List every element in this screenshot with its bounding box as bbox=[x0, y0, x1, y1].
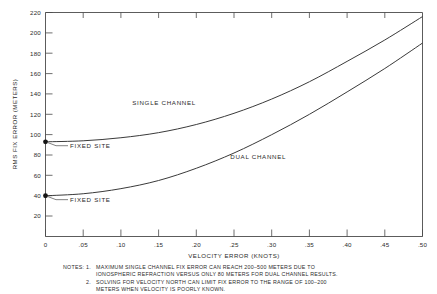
fixed-site-label-single: FIXED SITE bbox=[70, 142, 111, 149]
fixed-site-annotation-dual: FIXED SITE bbox=[43, 193, 111, 202]
x-tick-label: .05 bbox=[79, 241, 89, 248]
note-1-line-1: MAXIMUM SINGLE CHANNEL FIX ERROR CAN REA… bbox=[96, 264, 315, 270]
x-tick-label: .45 bbox=[380, 241, 390, 248]
y-tick-label: 200 bbox=[30, 29, 41, 36]
note-number-1: 1. bbox=[86, 264, 91, 270]
y-tick-label: 220 bbox=[30, 9, 41, 16]
fixed-site-leader-single bbox=[48, 143, 68, 146]
y-tick-label: 180 bbox=[30, 50, 41, 57]
notes-heading: NOTES: bbox=[63, 264, 84, 270]
x-tick-label: .25 bbox=[229, 241, 239, 248]
fixed-site-marker-single bbox=[43, 139, 48, 144]
single-channel-label: SINGLE CHANNEL bbox=[132, 99, 196, 106]
x-tick-label: .50 bbox=[418, 241, 428, 248]
x-tick-label: .15 bbox=[154, 241, 164, 248]
notes-block: NOTES: 1. MAXIMUM SINGLE CHANNEL FIX ERR… bbox=[63, 264, 338, 292]
y-tick-labels: 220 200 180 160 140 120 100 80 60 40 20 bbox=[30, 9, 41, 220]
y-tick-label: 140 bbox=[30, 90, 41, 97]
x-tick-label: .10 bbox=[116, 241, 126, 248]
x-tick-label: .30 bbox=[267, 241, 277, 248]
fixed-site-label-dual: FIXED SITE bbox=[70, 196, 111, 203]
top-border-ticks bbox=[83, 13, 385, 19]
note-2-line-2: METERS WHEN VELOCITY IS POORLY KNOWN. bbox=[96, 286, 225, 292]
fixed-site-marker-dual bbox=[43, 193, 48, 198]
y-tick-label: 20 bbox=[34, 212, 42, 219]
y-tick-label: 80 bbox=[34, 151, 42, 158]
x-tick-label: 0 bbox=[44, 241, 48, 248]
dual-channel-label: DUAL CHANNEL bbox=[230, 153, 286, 160]
y-tick-label: 120 bbox=[30, 111, 41, 118]
note-1-line-2: IONOSPHERIC REFRACTION VERSUS ONLY 80 ME… bbox=[96, 271, 338, 277]
y-tick-label: 40 bbox=[34, 192, 42, 199]
y-tick-label: 100 bbox=[30, 131, 41, 138]
x-tick-label: .35 bbox=[305, 241, 315, 248]
dual-channel-curve bbox=[46, 43, 423, 196]
y-tick-label: 160 bbox=[30, 70, 41, 77]
note-number-2: 2. bbox=[86, 279, 91, 285]
y-axis-title: RMS FIX ERROR (METERS) bbox=[11, 79, 18, 170]
y-tick-marks bbox=[46, 13, 53, 217]
chart-figure: 220 200 180 160 140 120 100 80 60 40 20 … bbox=[0, 0, 437, 294]
x-tick-marks bbox=[46, 230, 423, 237]
fixed-site-leader-dual bbox=[48, 196, 68, 199]
x-tick-labels: 0 .05 .10 .15 .20 .25 .30 .35 .40 .45 .5… bbox=[44, 241, 428, 248]
single-channel-curve bbox=[46, 17, 423, 142]
y-tick-label: 60 bbox=[34, 172, 42, 179]
velocity-error-vs-fix-error-chart: 220 200 180 160 140 120 100 80 60 40 20 … bbox=[0, 0, 437, 294]
note-2-line-1: SOLVING FOR VELOCITY NORTH CAN LIMIT FIX… bbox=[96, 279, 327, 285]
x-axis-title: VELOCITY ERROR (KNOTS) bbox=[188, 252, 279, 259]
plot-axes bbox=[46, 13, 423, 237]
x-tick-label: .40 bbox=[342, 241, 352, 248]
x-tick-label: .20 bbox=[192, 241, 202, 248]
